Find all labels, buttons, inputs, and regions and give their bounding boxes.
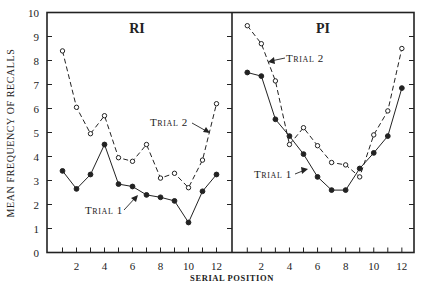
x-axis: 2468101224681012 [63,248,408,272]
y-axis: 012345678910 [28,7,414,259]
panel-ri-title: RI [129,21,145,36]
trial2-point [358,175,362,179]
trial1-point [144,193,149,198]
x-tick-label: 12 [211,260,222,272]
y-tick-label: 5 [34,127,40,139]
trial2-point [287,142,291,146]
annotation-label: Trial 1 [254,168,292,180]
trial1-point [130,184,135,189]
y-tick-label: 10 [28,7,40,19]
trial2-point [301,126,305,130]
trial2-point [315,144,319,148]
annotation-label: Trial 2 [286,52,324,64]
trial2-point [214,102,218,106]
panel-ri [60,49,219,225]
x-axis-label: SERIAL POSITION [190,273,274,283]
trial2-point [386,109,390,113]
trial2-point [329,160,333,164]
x-tick-label: 2 [74,260,80,272]
trial1-point [357,166,362,171]
trial1-point [329,188,334,193]
y-tick-label: 8 [34,55,40,67]
trial1-point [259,74,264,79]
y-tick-label: 4 [34,151,40,163]
y-tick-label: 7 [34,79,40,91]
x-tick-label: 12 [396,260,407,272]
annotation-pi-trial2: Trial 2 [268,52,324,64]
trial2-point [130,159,134,163]
panel-pi-title: PI [316,21,330,36]
trial2-point [158,176,162,180]
trial2-line [63,51,217,188]
trial1-point [158,195,163,200]
trial1-point [102,142,107,147]
x-tick-label: 6 [130,260,136,272]
trial1-point [315,175,320,180]
x-tick-label: 8 [343,260,349,272]
trial1-point [88,172,93,177]
trial2-point [102,114,106,118]
trial1-point [371,151,376,156]
x-tick-label: 10 [183,260,195,272]
trial2-point [60,49,64,53]
annotation-ri-trial2: Trial 2 [150,116,210,133]
trial2-point [400,46,404,50]
trial1-point [399,86,404,91]
y-tick-label: 3 [34,175,40,187]
trial1-point [60,169,65,174]
trial1-point [186,220,191,225]
x-tick-label: 6 [315,260,321,272]
trial1-point [301,152,306,157]
trial2-point [88,132,92,136]
trial2-point [144,142,148,146]
x-tick-label: 4 [287,260,293,272]
trial1-point [343,188,348,193]
trial2-point [172,171,176,175]
y-tick-label: 0 [34,247,40,259]
x-tick-label: 4 [102,260,108,272]
arrow-head-icon [301,167,308,174]
trial1-point [214,172,219,177]
annotation-ri-trial1: Trial 1 [85,195,138,216]
trial2-point [372,133,376,137]
trial2-point [273,79,277,83]
trial2-line [247,26,402,177]
serial-position-chart: 012345678910 2468101224681012 RI PI MEAN… [0,0,421,290]
y-tick-label: 9 [34,31,40,43]
x-tick-label: 8 [158,260,164,272]
annotation-label: Trial 1 [85,204,123,216]
trial2-point [74,105,78,109]
annotation-pi-trial1: Trial 1 [254,167,308,180]
trial1-point [172,199,177,204]
trial2-point [186,186,190,190]
y-tick-label: 2 [34,199,40,211]
trial1-point [385,134,390,139]
trial1-point [200,189,205,194]
trial1-point [245,70,250,75]
y-tick-label: 1 [34,223,40,235]
trial2-point [343,163,347,167]
x-tick-label: 2 [259,260,265,272]
trial1-point [74,187,79,192]
x-tick-label: 10 [368,260,380,272]
trial2-point [245,24,249,28]
y-axis-label: MEAN FREQUENCY OF RECALLS [5,49,16,218]
trial2-point [259,42,263,46]
y-tick-label: 6 [34,103,40,115]
annotation-label: Trial 2 [150,116,188,128]
trial2-point [200,158,204,162]
trial1-point [273,117,278,122]
trial1-point [116,182,121,187]
trial2-point [116,156,120,160]
